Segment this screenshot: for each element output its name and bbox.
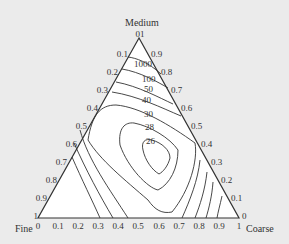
tick: 0.2 <box>107 67 118 77</box>
tick: 0.8 <box>46 175 58 185</box>
tick: 0.3 <box>211 157 223 167</box>
tick: 0.6 <box>153 221 165 231</box>
tick: 0.4 <box>201 139 213 149</box>
tick: 0.5 <box>76 121 88 131</box>
tick: 0.9 <box>151 49 163 59</box>
tick: 0.7 <box>56 157 68 167</box>
tick: 1 <box>34 211 39 221</box>
tick: 0.4 <box>87 103 99 113</box>
tick: 0.6 <box>181 103 193 113</box>
tick: 0.1 <box>52 221 63 231</box>
ternary-diagram: 1000 100 50 40 30 28 26 Medium Fine Coar… <box>0 0 289 244</box>
tick: 0.2 <box>72 221 83 231</box>
tick: 0.5 <box>191 121 203 131</box>
tick: 0 <box>36 221 41 231</box>
tick: 0.5 <box>132 221 144 231</box>
tick: 0.8 <box>161 67 173 77</box>
vertex-label-medium: Medium <box>125 17 159 28</box>
tick: 1 <box>140 29 145 39</box>
contour-label-50: 50 <box>144 84 154 94</box>
tick: 1 <box>237 221 242 231</box>
tick: 0.1 <box>117 49 128 59</box>
tick: 0.3 <box>97 85 109 95</box>
bottom-edge-ticks: 0 0.1 0.2 0.3 0.4 0.5 0.6 0.7 0.8 0.9 1 <box>36 221 242 231</box>
tick: 0.9 <box>36 193 48 203</box>
contour-label-40: 40 <box>142 95 152 105</box>
ternary-plot: 1000 100 50 40 30 28 26 Medium Fine Coar… <box>0 0 289 244</box>
tick: 0.3 <box>92 221 104 231</box>
contour-label-30: 30 <box>144 109 154 119</box>
tick: 0.8 <box>193 221 205 231</box>
contour-label-100: 100 <box>142 74 156 84</box>
contour-label-1000: 1000 <box>134 59 153 69</box>
tick: 0.2 <box>221 175 232 185</box>
vertex-label-coarse: Coarse <box>246 223 274 234</box>
tick: 0.4 <box>112 221 124 231</box>
vertex-label-fine: Fine <box>15 223 33 234</box>
tick: 0.7 <box>173 221 185 231</box>
tick: 0 <box>242 211 247 221</box>
contour-label-28: 28 <box>145 122 155 132</box>
tick: 0.6 <box>66 139 78 149</box>
contour-label-26: 26 <box>146 136 156 146</box>
tick: 0.7 <box>171 85 183 95</box>
tick: 0.1 <box>231 193 242 203</box>
tick: 0.9 <box>213 221 225 231</box>
